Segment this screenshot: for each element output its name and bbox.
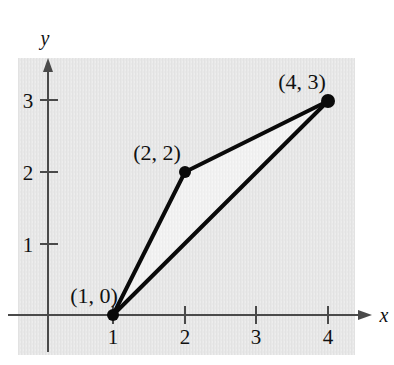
- vertex-point-2-2: [179, 166, 191, 178]
- x-tick-label-3: 3: [251, 325, 262, 349]
- x-axis-arrowhead: [358, 310, 372, 320]
- vertex-point-1-0: [107, 309, 119, 321]
- figure-container: 1 2 3 4 3 2 1 y x (1, 0) (2, 2) (4, 3): [0, 0, 394, 365]
- vertex-point-4-3: [321, 94, 335, 108]
- y-tick-label-2: 2: [23, 161, 34, 185]
- y-tick-label-1: 1: [23, 233, 34, 257]
- coordinate-plane-figure: 1 2 3 4 3 2 1 y x (1, 0) (2, 2) (4, 3): [0, 0, 394, 365]
- y-axis-label: y: [39, 27, 50, 50]
- x-tick-label-1: 1: [108, 325, 119, 349]
- x-tick-label-4: 4: [323, 325, 334, 349]
- point-label-4-3: (4, 3): [278, 69, 326, 94]
- x-axis-label: x: [379, 304, 389, 326]
- y-tick-label-3: 3: [23, 89, 34, 113]
- x-tick-label-2: 2: [180, 325, 191, 349]
- point-label-2-2: (2, 2): [133, 140, 181, 165]
- point-label-1-0: (1, 0): [70, 283, 118, 308]
